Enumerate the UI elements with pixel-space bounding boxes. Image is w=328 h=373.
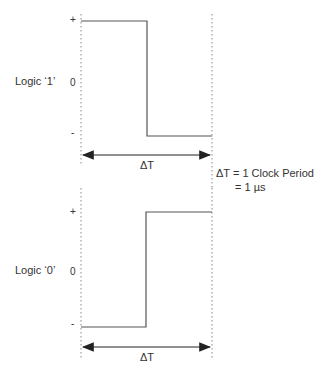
logic-1-label: Logic ‘1’ — [15, 75, 55, 87]
waveform-diagram — [0, 0, 328, 373]
delta-definition-line2: = 1 µs — [235, 181, 266, 193]
bottom-delta-label: ΔT — [140, 351, 154, 363]
logic-0-waveform — [81, 212, 212, 327]
delta-definition-line1: ΔT = 1 Clock Period — [216, 167, 314, 179]
top-plus-tick: + — [70, 14, 76, 25]
logic-1-waveform — [81, 21, 212, 136]
bottom-zero-tick: 0 — [70, 266, 76, 277]
top-delta-label: ΔT — [140, 159, 154, 171]
bottom-minus-tick: - — [71, 318, 74, 329]
top-minus-tick: - — [71, 127, 74, 138]
top-zero-tick: 0 — [70, 77, 76, 88]
logic-0-label: Logic ‘0’ — [15, 264, 55, 276]
bottom-plus-tick: + — [70, 206, 76, 217]
